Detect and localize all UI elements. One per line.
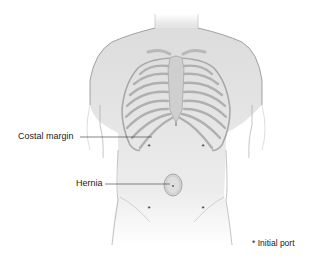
port-lower-left: * xyxy=(147,204,150,213)
port-lower-right: * xyxy=(201,204,204,213)
port-upper-right: * xyxy=(201,142,204,151)
torso-diagram: * * * * Costal margin Hernia * Initial p… xyxy=(0,0,317,266)
hernia-label: Hernia xyxy=(76,178,103,188)
sternum xyxy=(168,56,184,122)
legend-port-text: Initial port xyxy=(258,238,295,248)
umbilicus xyxy=(172,185,174,187)
legend-port-symbol: * xyxy=(252,238,255,248)
costal-margin-label: Costal margin xyxy=(18,131,74,141)
legend: * Initial port xyxy=(252,238,295,248)
port-upper-left: * xyxy=(147,142,150,151)
